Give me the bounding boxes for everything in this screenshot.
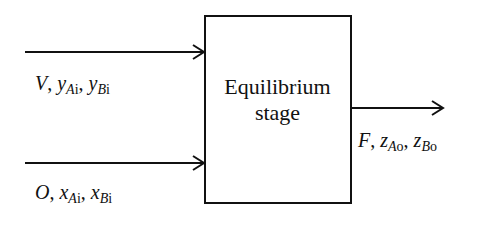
stream-name: O [35, 181, 49, 203]
stage-label: Equilibrium stage [204, 74, 351, 126]
stage-label-line2: stage [204, 100, 351, 126]
stream-name: F [358, 129, 370, 151]
input-label-o: O, xAi, xBi [35, 182, 112, 202]
stage-label-line1: Equilibrium [204, 74, 351, 100]
stream-name: V [35, 72, 47, 94]
input-label-v: V, yAi, yBi [35, 73, 110, 93]
output-label-f: F, zAo, zBo [358, 130, 437, 150]
output-arrow-f [351, 101, 443, 115]
input-arrow-o [25, 156, 204, 170]
input-arrow-v [25, 45, 204, 59]
